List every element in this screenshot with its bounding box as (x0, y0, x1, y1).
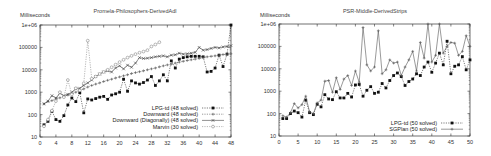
data-point-square (385, 87, 388, 90)
x-tick-label: 10 (314, 139, 320, 145)
y-tick-label: 1e+06 (261, 21, 276, 27)
data-point-square (98, 96, 101, 99)
y-axis-label: Milliseconds (20, 12, 50, 18)
data-point-plus (323, 80, 326, 83)
legend-label: Marvin (30 solved) (153, 124, 198, 130)
data-point-circle (62, 96, 65, 99)
data-point-plus (304, 95, 307, 98)
data-point-plus (110, 78, 113, 81)
data-point-x (86, 82, 89, 85)
data-point-circle (106, 68, 109, 71)
series-group (43, 24, 233, 128)
data-point-square (343, 97, 346, 100)
data-point-square (465, 68, 468, 71)
data-point-x (126, 64, 129, 67)
data-point-plus (404, 66, 407, 69)
data-point-plus (106, 79, 109, 82)
data-point-square (222, 65, 225, 68)
data-point-square (142, 81, 145, 84)
data-point-circle (146, 49, 149, 52)
data-point-square (182, 56, 185, 59)
x-tick-label: 32 (164, 140, 170, 146)
data-point-plus (365, 63, 368, 66)
data-point-square (365, 89, 368, 92)
data-point-square (415, 72, 418, 75)
series-group (281, 23, 471, 120)
x-tick-label: 28 (148, 140, 154, 146)
data-point-plus (423, 57, 426, 60)
data-point-plus (158, 65, 161, 68)
legend-label: Downward (Diagonally) (48 solved) (112, 117, 198, 123)
x-tick-label: 24 (132, 140, 138, 146)
data-point-plus (451, 128, 454, 131)
data-point-square (327, 98, 330, 101)
data-point-square (74, 100, 77, 103)
data-point-circle (158, 41, 161, 44)
data-point-square (404, 84, 407, 87)
data-point-plus (190, 58, 193, 61)
data-point-square (94, 97, 97, 100)
data-point-square (194, 55, 197, 58)
data-point-plus (350, 84, 353, 87)
data-point-plus (377, 29, 380, 32)
data-point-square (339, 97, 342, 100)
data-point-square (174, 67, 177, 70)
data-point-plus (74, 91, 77, 94)
data-point-square (126, 90, 129, 93)
x-tick-label: 20 (117, 140, 123, 146)
data-point-plus (150, 67, 153, 70)
data-point-square (106, 98, 109, 101)
data-point-square (381, 82, 384, 85)
data-point-plus (362, 26, 365, 29)
data-point-square (86, 98, 89, 101)
x-tick-label: 40 (429, 139, 435, 145)
data-point-circle (82, 82, 85, 85)
data-point-square (134, 82, 137, 85)
series-line (44, 54, 231, 104)
data-point-circle (110, 66, 113, 69)
legend-label: SGPlan (50 solved) (389, 126, 437, 132)
x-axis-ticks: 05101520253035404550 (277, 24, 473, 145)
data-point-plus (396, 61, 399, 64)
x-tick-label: 25 (371, 139, 377, 145)
data-point-plus (438, 23, 441, 26)
x-tick-label: 50 (467, 139, 473, 145)
data-point-square (70, 97, 73, 100)
y-tick-label: 100 (28, 112, 37, 118)
x-tick-label: 15 (333, 139, 339, 145)
x-tick-label: 4 (54, 140, 57, 146)
data-point-circle (74, 87, 77, 90)
chart-title: PSR-Middle-DerivedStrips (343, 8, 407, 14)
data-point-square (396, 72, 399, 75)
x-tick-label: 48 (228, 140, 234, 146)
data-point-plus (327, 79, 330, 82)
data-point-circle (212, 125, 215, 128)
data-point-plus (415, 70, 418, 73)
legend: LPG-td (50 solved)SGPlan (50 solved) (389, 120, 463, 132)
data-point-plus (354, 70, 357, 73)
data-point-circle (150, 45, 153, 48)
data-point-square (451, 122, 454, 125)
data-point-square (118, 91, 121, 94)
data-point-plus (130, 72, 133, 75)
data-point-plus (186, 59, 189, 62)
data-point-square (362, 95, 365, 98)
data-point-square (178, 58, 181, 61)
data-point-square (170, 59, 173, 62)
data-point-plus (166, 64, 169, 67)
data-point-circle (142, 50, 145, 53)
data-point-plus (82, 88, 85, 91)
data-point-plus (212, 113, 215, 116)
chart-promela-philosophers: Promela-Philosophers-DerivedAdl Millisec… (19, 8, 234, 146)
y-tick-label: 1e+06 (22, 22, 37, 28)
data-point-circle (122, 58, 125, 61)
data-point-square (369, 85, 372, 88)
legend: LPG-td (48 solved)Downward (48 solved)Do… (112, 105, 224, 130)
x-tick-label: 40 (196, 140, 202, 146)
data-point-square (206, 71, 209, 74)
data-point-square (62, 114, 65, 117)
data-point-x (51, 94, 54, 97)
data-point-circle (90, 77, 93, 80)
data-point-plus (98, 82, 101, 85)
data-point-square (442, 63, 445, 66)
